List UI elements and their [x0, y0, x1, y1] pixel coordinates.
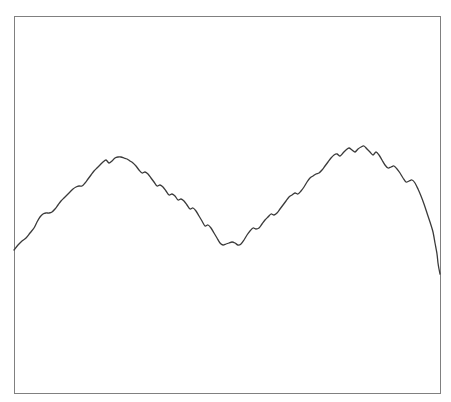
line-plot-canvas	[0, 0, 451, 402]
figure-root	[0, 0, 451, 402]
figure-background	[0, 0, 451, 402]
